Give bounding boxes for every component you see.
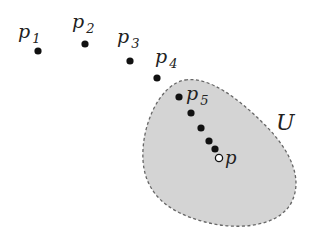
limit-point-diagram: p1 p2 p3 p4 p5 p U [0, 0, 320, 241]
label-p3: p3 [117, 25, 139, 51]
label-p2: p2 [72, 10, 94, 36]
point-p9 [211, 145, 218, 152]
point-p1 [34, 47, 41, 54]
label-p: p [225, 147, 237, 168]
point-p6 [187, 109, 194, 116]
limit-point-p [215, 154, 222, 161]
point-p3 [126, 57, 133, 64]
point-p4 [153, 74, 160, 81]
point-p7 [197, 124, 204, 131]
point-p8 [205, 137, 212, 144]
label-p4: p4 [155, 45, 177, 71]
point-p2 [81, 40, 88, 47]
label-u: U [276, 110, 296, 135]
label-p1: p1 [18, 20, 40, 46]
point-p5 [175, 93, 182, 100]
region-u [143, 80, 296, 227]
